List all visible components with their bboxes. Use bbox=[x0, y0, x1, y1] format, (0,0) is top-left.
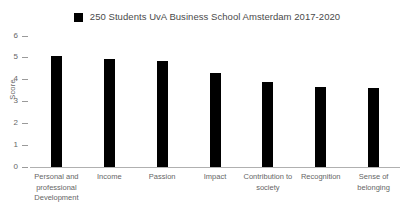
y-tick-label: 6 bbox=[3, 31, 18, 41]
bar-slot bbox=[83, 36, 136, 167]
x-tick-label: Personal and professional Development bbox=[30, 172, 83, 204]
x-tick-label: Recognition bbox=[294, 172, 347, 204]
y-tick-label: 2 bbox=[3, 118, 18, 128]
bar[interactable] bbox=[104, 59, 115, 167]
y-tick-label: 1 bbox=[3, 140, 18, 150]
x-tick-label: Passion bbox=[136, 172, 189, 204]
x-axis-line bbox=[30, 167, 400, 168]
bar-slot bbox=[241, 36, 294, 167]
bar-series bbox=[30, 36, 400, 167]
bar-chart: 250 Students UvA Business School Amsterd… bbox=[0, 0, 414, 209]
y-tick-mark-icon bbox=[22, 167, 28, 168]
x-axis-labels: Personal and professional DevelopmentInc… bbox=[30, 172, 400, 204]
y-tick-label: 0 bbox=[3, 162, 18, 172]
bar[interactable] bbox=[315, 87, 326, 167]
y-tick-mark-icon bbox=[22, 145, 28, 146]
legend-label: 250 Students UvA Business School Amsterd… bbox=[90, 12, 340, 22]
y-tick-label: 3 bbox=[3, 96, 18, 106]
y-tick-mark-icon bbox=[22, 36, 28, 37]
bar-slot bbox=[294, 36, 347, 167]
bar-slot bbox=[347, 36, 400, 167]
legend-swatch-icon bbox=[74, 13, 83, 22]
bar[interactable] bbox=[157, 61, 168, 167]
y-tick-label: 4 bbox=[3, 74, 18, 84]
x-tick-label: Impact bbox=[189, 172, 242, 204]
y-tick-label: 5 bbox=[3, 52, 18, 62]
bar[interactable] bbox=[210, 73, 221, 167]
x-tick-label: Income bbox=[83, 172, 136, 204]
bar-slot bbox=[136, 36, 189, 167]
y-axis-title: Score bbox=[8, 60, 17, 120]
bar[interactable] bbox=[51, 56, 62, 167]
chart-legend: 250 Students UvA Business School Amsterd… bbox=[0, 12, 414, 22]
bar[interactable] bbox=[368, 88, 379, 167]
y-tick-mark-icon bbox=[22, 101, 28, 102]
y-tick-mark-icon bbox=[22, 123, 28, 124]
x-tick-label: Sense of belonging bbox=[347, 172, 400, 204]
x-tick-label: Contribution to society bbox=[241, 172, 294, 204]
bar-slot bbox=[30, 36, 83, 167]
y-tick-mark-icon bbox=[22, 79, 28, 80]
bar[interactable] bbox=[262, 82, 273, 167]
y-tick-mark-icon bbox=[22, 57, 28, 58]
plot-area: 6543210 bbox=[30, 36, 400, 167]
bar-slot bbox=[189, 36, 242, 167]
